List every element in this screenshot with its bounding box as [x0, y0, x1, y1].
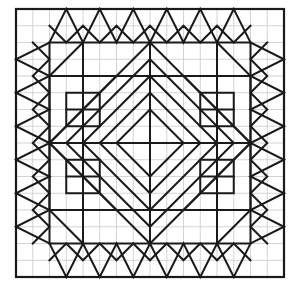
- geometric-pattern-figure: Geometric quilt block tessellation patte…: [0, 0, 298, 288]
- figure-stage: Geometric quilt block tessellation patte…: [0, 0, 298, 288]
